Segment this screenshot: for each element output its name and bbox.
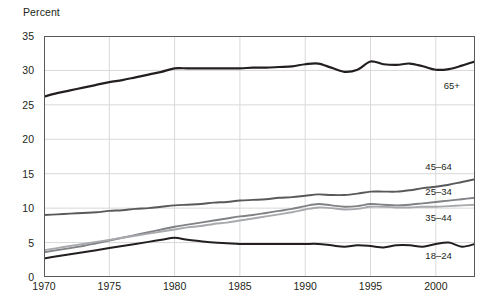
- series-label-45-64: 45–64: [425, 161, 451, 172]
- chart-container: Percent 05101520253035 19701975198019851…: [0, 0, 487, 306]
- series-label-35-44: 35–44: [425, 212, 451, 223]
- y-axis-tick-15: 15: [6, 168, 34, 180]
- y-axis-tick-5: 5: [6, 237, 34, 249]
- x-axis-tick-1990: 1990: [294, 280, 317, 292]
- y-axis-tick-35: 35: [6, 30, 34, 42]
- x-axis-tick-2000: 2000: [424, 280, 447, 292]
- y-axis-tick-10: 10: [6, 202, 34, 214]
- y-axis-title: Percent: [23, 6, 60, 18]
- plot-area: [44, 36, 475, 277]
- series-label-18-24: 18–24: [425, 250, 451, 261]
- series-label-25-34: 25–34: [425, 186, 451, 197]
- x-axis-tick-1980: 1980: [163, 280, 186, 292]
- x-axis-tick-1995: 1995: [359, 280, 382, 292]
- x-axis-tick-1970: 1970: [32, 280, 55, 292]
- y-axis-tick-0: 0: [6, 271, 34, 283]
- y-axis-tick-20: 20: [6, 133, 34, 145]
- x-axis-tick-1985: 1985: [228, 280, 251, 292]
- x-axis-tick-1975: 1975: [98, 280, 121, 292]
- y-axis-tick-30: 30: [6, 64, 34, 76]
- plot-frame: [44, 36, 475, 277]
- series-label-65+: 65+: [444, 80, 460, 91]
- y-axis-tick-25: 25: [6, 99, 34, 111]
